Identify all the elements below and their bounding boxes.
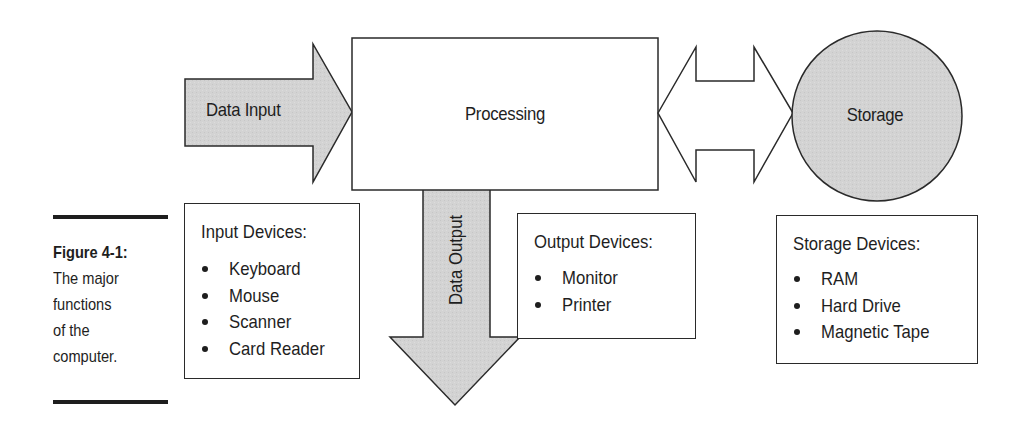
caption-bottom-rule bbox=[53, 400, 168, 404]
list-item: Card Reader bbox=[202, 336, 342, 363]
caption-line: functions bbox=[53, 292, 161, 318]
bullet-icon bbox=[794, 303, 800, 309]
data-input-label: Data Input bbox=[206, 99, 281, 121]
bullet-icon bbox=[202, 266, 208, 272]
output-devices-list: Monitor Printer bbox=[535, 265, 675, 318]
list-item: Scanner bbox=[202, 309, 342, 336]
input-devices-box: Input Devices: Keyboard Mouse Scanner Ca… bbox=[184, 203, 360, 379]
list-item: Monitor bbox=[535, 265, 675, 292]
list-item: Mouse bbox=[202, 283, 342, 310]
figure-caption: Figure 4-1: The major functions of the c… bbox=[53, 240, 178, 370]
processing-label: Processing bbox=[465, 103, 545, 125]
list-item: Printer bbox=[535, 292, 675, 319]
storage-devices-title: Storage Devices: bbox=[793, 233, 920, 255]
storage-devices-box: Storage Devices: RAM Hard Drive Magnetic… bbox=[776, 215, 978, 364]
bullet-icon bbox=[794, 329, 800, 335]
list-item: Hard Drive bbox=[794, 293, 964, 320]
list-item: RAM bbox=[794, 266, 964, 293]
caption-line: The major bbox=[53, 266, 161, 292]
figure-canvas: Data Input Processing Storage Data Outpu… bbox=[0, 0, 1026, 425]
bullet-icon bbox=[202, 293, 208, 299]
list-item: Keyboard bbox=[202, 256, 342, 283]
bidirectional-arrow bbox=[658, 47, 793, 182]
data-output-label: Data Output bbox=[445, 215, 467, 305]
output-devices-title: Output Devices: bbox=[534, 231, 653, 253]
input-devices-title: Input Devices: bbox=[201, 221, 307, 243]
bullet-icon bbox=[535, 275, 541, 281]
storage-label: Storage bbox=[847, 104, 904, 126]
output-devices-box: Output Devices: Monitor Printer bbox=[517, 213, 696, 339]
caption-line: computer. bbox=[53, 344, 161, 370]
input-devices-list: Keyboard Mouse Scanner Card Reader bbox=[202, 256, 342, 362]
caption-line: of the bbox=[53, 318, 161, 344]
bullet-icon bbox=[794, 276, 800, 282]
bullet-icon bbox=[535, 302, 541, 308]
caption-top-rule bbox=[53, 215, 168, 219]
bullet-icon bbox=[202, 346, 208, 352]
figure-number: Figure 4-1: bbox=[53, 240, 161, 266]
bullet-icon bbox=[202, 319, 208, 325]
list-item: Magnetic Tape bbox=[794, 319, 964, 346]
storage-devices-list: RAM Hard Drive Magnetic Tape bbox=[794, 266, 964, 346]
